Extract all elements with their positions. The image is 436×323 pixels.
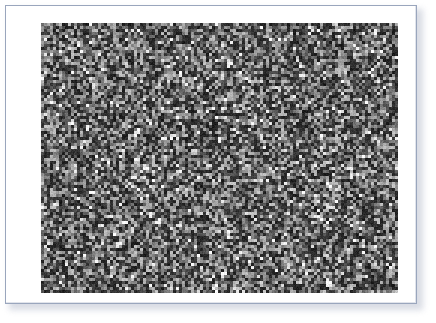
- figure-alt-text: Grayscale random noise image: [0, 0, 1, 1]
- screenshot-root: Grayscale random noise image: [0, 0, 436, 323]
- figure-panel: [5, 5, 417, 304]
- grayscale-random-noise-image: [41, 23, 398, 293]
- figure-matte: [6, 6, 416, 303]
